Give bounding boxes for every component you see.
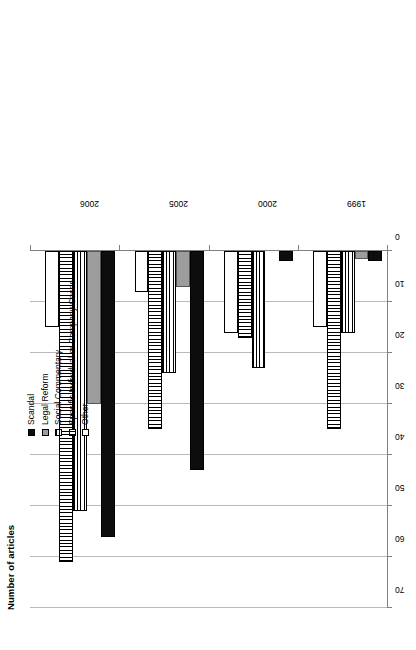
category-axis-tick (209, 245, 210, 250)
category-axis-tick (119, 245, 120, 250)
value-axis-tick-label: 40 (395, 432, 404, 442)
value-axis-tick-label: 0 (395, 232, 400, 242)
legend-label-other: Other (81, 404, 90, 426)
bar-specific-2005 (148, 251, 162, 430)
bar-social-2005 (162, 251, 176, 373)
value-axis-tick-label: 70 (395, 585, 404, 595)
value-axis-tick-label: 60 (395, 534, 404, 544)
value-axis-title: Number of articles (5, 525, 16, 610)
bar-specific-2000 (238, 251, 252, 338)
legend-item-specific[interactable]: Specific Individual or Company Cases (67, 280, 78, 436)
bar-scandal-2005 (190, 251, 204, 470)
legend-label-legal: Legal Reform (41, 373, 50, 425)
bar-legal-1999 (355, 251, 369, 259)
category-label-2006: 2006 (80, 199, 99, 209)
category-axis-tick (298, 245, 299, 250)
gridline (30, 556, 387, 557)
value-axis-tick-label: 30 (395, 381, 404, 391)
value-axis-line (387, 251, 388, 608)
bar-scandal-2006 (101, 251, 115, 537)
legend-swatch-icon-scandal (28, 429, 35, 436)
category-label-2000: 2000 (258, 199, 277, 209)
bar-scandal-2000 (279, 251, 293, 261)
chart-legend: ScandalLegal ReformSocial CommentarySpec… (26, 280, 94, 436)
rotated-figure: Number of articles 706050403020100200620… (0, 0, 416, 650)
value-axis-tick-label: 20 (395, 330, 404, 340)
legend-item-social[interactable]: Social Commentary (53, 280, 64, 436)
bar-other-2000 (224, 251, 238, 333)
bar-legal-2005 (176, 251, 190, 287)
legend-item-scandal[interactable]: Scandal (26, 280, 37, 436)
legend-item-legal[interactable]: Legal Reform (40, 280, 51, 436)
bar-social-2000 (252, 251, 266, 368)
bar-other-1999 (313, 251, 327, 328)
bar-social-1999 (341, 251, 355, 333)
legend-label-social: Social Commentary (54, 350, 63, 425)
figure: Number of articles 706050403020100200620… (0, 0, 416, 650)
legend-swatch-icon-specific (69, 429, 76, 436)
bar-other-2005 (135, 251, 149, 292)
legend-label-scandal: Scandal (27, 394, 36, 425)
legend-label-specific: Specific Individual or Company Cases (68, 280, 77, 425)
axis-frame-left (30, 607, 387, 608)
legend-item-other[interactable]: Other (80, 280, 91, 436)
bar-scandal-1999 (368, 251, 382, 261)
value-axis-tick-label: 50 (395, 483, 404, 493)
category-axis-tick (30, 245, 31, 250)
category-label-2005: 2005 (169, 199, 188, 209)
value-axis-tick-label: 10 (395, 279, 404, 289)
chart-page: Number of articles 706050403020100200620… (0, 0, 416, 650)
legend-swatch-icon-other (82, 429, 89, 436)
bar-specific-1999 (327, 251, 341, 430)
category-label-1999: 1999 (347, 199, 366, 209)
category-axis-tick (387, 245, 388, 250)
legend-swatch-icon-social (55, 429, 62, 436)
legend-swatch-icon-legal (42, 429, 49, 436)
